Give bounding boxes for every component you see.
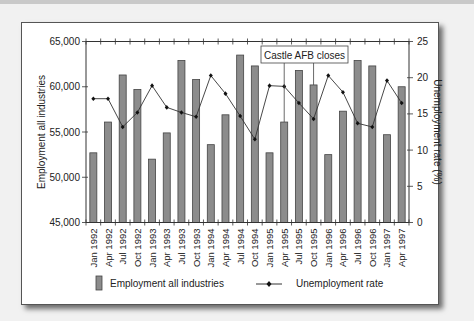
y-tick-label-right: 15 <box>417 108 429 119</box>
x-tick-label: Apr 1996 <box>337 229 348 268</box>
bar <box>193 80 200 223</box>
x-axis-labels: Jan 1992Apr 1992Jul 1992Oct 1992Jan 1993… <box>88 229 407 268</box>
y-tick-label-left: 55,000 <box>49 127 80 138</box>
x-tick-label: Jul 1995 <box>293 229 304 265</box>
bar <box>354 61 361 223</box>
bar <box>90 153 97 223</box>
employment-bars <box>90 55 405 222</box>
y-tick-label-right: 25 <box>417 36 429 47</box>
bar <box>207 145 214 223</box>
bar <box>222 115 229 223</box>
x-tick-label: Oct 1995 <box>308 229 319 268</box>
x-tick-label: Jan 1993 <box>147 229 158 268</box>
x-tick-label: Jan 1994 <box>205 229 216 268</box>
chart-svg: 45,00050,00055,00060,00065,0000510152025… <box>0 0 474 321</box>
legend: Employment all industries Unemployment r… <box>96 276 384 290</box>
y-tick-label-left: 65,000 <box>49 36 80 47</box>
x-tick-label: Apr 1994 <box>220 229 231 268</box>
x-tick-label: Oct 1996 <box>367 229 378 268</box>
x-tick-label: Apr 1997 <box>396 229 407 268</box>
bar <box>105 122 112 222</box>
x-tick-label: Jan 1995 <box>264 229 275 268</box>
bar <box>281 122 288 222</box>
y-tick-label-right: 10 <box>417 145 429 156</box>
y-axis-label-left: Employment all industries <box>36 75 47 189</box>
annotation-callout: Castle AFB closes <box>261 46 348 122</box>
bar <box>237 55 244 222</box>
legend-line-label: Unemployment rate <box>296 278 384 289</box>
x-tick-label: Jul 1993 <box>176 229 187 265</box>
x-tick-label: Jul 1994 <box>235 229 246 265</box>
x-tick-label: Jul 1996 <box>352 229 363 265</box>
bar <box>119 75 126 223</box>
y-tick-label-right: 0 <box>417 217 423 228</box>
bar <box>149 159 156 222</box>
x-tick-label: Jan 1996 <box>323 229 334 268</box>
x-tick-label: Oct 1992 <box>132 229 143 268</box>
x-tick-label: Jul 1992 <box>117 229 128 265</box>
x-tick-label: Oct 1994 <box>249 229 260 268</box>
bar <box>310 85 317 223</box>
x-tick-label: Jan 1992 <box>88 229 99 268</box>
bar <box>178 61 185 223</box>
diamond-marker-icon <box>91 96 95 101</box>
y-tick-label-right: 20 <box>417 72 429 83</box>
bar <box>251 66 258 223</box>
legend-bar-swatch <box>96 276 102 290</box>
y-tick-label-left: 50,000 <box>49 172 80 183</box>
bar <box>369 66 376 223</box>
x-tick-label: Oct 1993 <box>191 229 202 268</box>
bar <box>163 133 170 223</box>
x-tick-label: Apr 1995 <box>279 229 290 268</box>
x-tick-label: Apr 1993 <box>161 229 172 268</box>
y-tick-label-left: 60,000 <box>49 81 80 92</box>
diamond-marker-icon <box>267 281 272 287</box>
diamond-marker-icon <box>106 96 110 101</box>
bar <box>339 111 346 222</box>
bar <box>398 87 405 223</box>
callout-text: Castle AFB closes <box>264 50 345 61</box>
x-tick-label: Jan 1997 <box>381 229 392 268</box>
y-axis-label-right: Unemployment rate (%) <box>432 79 443 185</box>
bar <box>325 155 332 223</box>
y-tick-label-left: 45,000 <box>49 217 80 228</box>
bar <box>383 135 390 223</box>
diamond-marker-icon <box>268 83 272 88</box>
bar <box>266 153 273 223</box>
bar <box>295 70 302 222</box>
x-tick-label: Apr 1992 <box>103 229 114 268</box>
bar <box>134 89 141 222</box>
y-tick-label-right: 5 <box>417 181 423 192</box>
legend-bar-label: Employment all industries <box>110 278 224 289</box>
